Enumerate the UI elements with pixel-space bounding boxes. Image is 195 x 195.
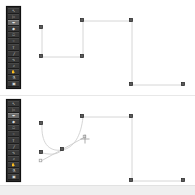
node-tool-icon: ◆	[8, 120, 18, 124]
path-polyline-before[interactable]	[42, 21, 184, 85]
toolbar-after[interactable]: ↖ ▷ ✒ ◆ □ ○ T ╱ ∿ ⌕ ✋ ⚗ ▣	[6, 99, 21, 182]
crosshair-cursor	[81, 135, 90, 144]
shape-tool-icon: □	[8, 34, 18, 38]
control-point-out[interactable]	[83, 135, 86, 138]
vector-artboard-after[interactable]	[0, 96, 195, 195]
anchor-point[interactable]	[40, 151, 43, 154]
text-tool-icon: T	[8, 46, 18, 50]
anchor-point[interactable]	[130, 115, 133, 118]
zoom-tool-icon: ⌕	[8, 157, 18, 161]
anchor-point[interactable]	[40, 55, 43, 58]
anchor-point[interactable]	[81, 115, 84, 118]
anchor-point[interactable]	[61, 148, 64, 151]
pen-tool-icon: ✒	[8, 21, 18, 25]
control-point-in[interactable]	[39, 159, 42, 162]
panel-after: ↖ ▷ ✒ ◆ □ ○ T ╱ ∿ ⌕ ✋ ⚗ ▣	[0, 96, 195, 195]
anchor-point[interactable]	[81, 19, 84, 22]
node-tool-icon: ◆	[8, 27, 18, 31]
select-tool-icon: ↖	[8, 9, 18, 13]
anchor-point[interactable]	[182, 179, 185, 182]
tool-fill-tool[interactable]: ▣	[8, 174, 19, 180]
hand-tool-icon: ✋	[8, 70, 18, 74]
tool-fill-tool[interactable]: ▣	[8, 81, 19, 87]
eyedropper-tool-icon: ⚗	[8, 76, 18, 80]
canvas-before[interactable]	[0, 0, 195, 96]
canvas-after[interactable]	[0, 96, 195, 195]
zoom-tool-icon: ⌕	[8, 64, 18, 68]
anchor-group-after	[40, 115, 185, 182]
line-tool-icon: ╱	[8, 145, 18, 149]
anchor-point[interactable]	[130, 83, 133, 86]
toolbar-before[interactable]: ↖ ▷ ✒ ◆ □ ○ T ╱ ∿ ⌕ ✋ ⚗ ▣	[6, 6, 21, 89]
hand-tool-icon: ✋	[8, 163, 18, 167]
bezier-tool-icon: ∿	[8, 58, 18, 62]
app-root: ↖ ▷ ✒ ◆ □ ○ T ╱ ∿ ⌕ ✋ ⚗ ▣	[0, 0, 195, 195]
panel-before: ↖ ▷ ✒ ◆ □ ○ T ╱ ∿ ⌕ ✋ ⚗ ▣	[0, 0, 195, 96]
status-strip	[0, 185, 195, 195]
eyedropper-tool-icon: ⚗	[8, 169, 18, 173]
anchor-point[interactable]	[40, 122, 43, 125]
ellipse-tool-icon: ○	[8, 40, 18, 44]
anchor-group-before	[40, 19, 185, 86]
anchor-point[interactable]	[130, 19, 133, 22]
text-tool-icon: T	[8, 139, 18, 143]
anchor-point[interactable]	[40, 26, 43, 29]
ellipse-tool-icon: ○	[8, 133, 18, 137]
fill-tool-icon: ▣	[8, 82, 18, 86]
line-tool-icon: ╱	[8, 52, 18, 56]
direct-select-tool-icon: ▷	[8, 15, 18, 19]
anchor-point[interactable]	[182, 83, 185, 86]
fill-tool-icon: ▣	[8, 175, 18, 179]
anchor-point[interactable]	[81, 55, 84, 58]
direct-select-tool-icon: ▷	[8, 108, 18, 112]
select-tool-icon: ↖	[8, 102, 18, 106]
vector-artboard-before[interactable]	[0, 0, 195, 96]
anchor-point[interactable]	[130, 179, 133, 182]
shape-tool-icon: □	[8, 127, 18, 131]
bezier-tool-icon: ∿	[8, 151, 18, 155]
pen-tool-icon: ✒	[8, 114, 18, 118]
